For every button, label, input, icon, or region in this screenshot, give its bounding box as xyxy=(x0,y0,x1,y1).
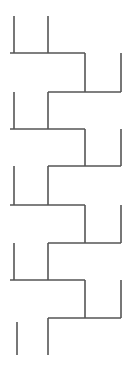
staircase-diagram xyxy=(0,0,130,372)
